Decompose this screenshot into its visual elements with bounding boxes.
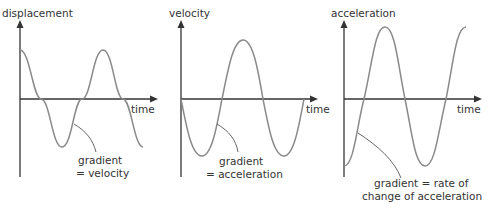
x-axis-label-time: time <box>457 103 481 115</box>
annotation-change-of-acceleration: change of acceleration <box>362 190 482 202</box>
y-axis-label-acceleration: acceleration <box>331 7 396 19</box>
kinematics-graphs-figure: displacement time gradient = velocity ve… <box>0 0 488 210</box>
y-axis-label-velocity: velocity <box>169 7 210 19</box>
acceleration-time-graph: acceleration time gradient = rate of cha… <box>331 7 482 202</box>
annotation-velocity: = velocity <box>76 167 129 179</box>
x-axis-arrow-icon <box>310 96 318 103</box>
x-axis-arrow-icon <box>474 96 482 103</box>
gradient-pointer-line <box>358 133 401 178</box>
annotation-gradient-rate: gradient = rate of <box>374 177 469 189</box>
gradient-pointer-line <box>217 124 238 152</box>
displacement-time-graph: displacement time gradient = velocity <box>2 7 158 179</box>
y-axis-arrow-icon <box>17 20 24 28</box>
x-axis-label-time: time <box>306 103 330 115</box>
acceleration-curve <box>344 27 466 166</box>
y-axis-arrow-icon <box>341 20 348 28</box>
annotation-gradient: gradient <box>78 154 122 166</box>
velocity-time-graph: velocity time gradient = acceleration <box>169 7 330 180</box>
velocity-curve <box>181 40 304 156</box>
x-axis-label-time: time <box>131 103 155 115</box>
annotation-gradient: gradient <box>219 155 263 167</box>
x-axis-arrow-icon <box>150 96 158 103</box>
y-axis-label-displacement: displacement <box>2 7 73 19</box>
y-axis-arrow-icon <box>178 20 185 28</box>
annotation-acceleration: = acceleration <box>206 168 283 180</box>
gradient-pointer-line <box>74 124 96 152</box>
